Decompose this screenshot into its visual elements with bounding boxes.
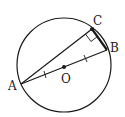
label-o: O xyxy=(61,72,71,86)
geometry-diagram: A B C O xyxy=(0,0,125,117)
segment-ac xyxy=(21,29,92,84)
diagram-canvas: A B C O xyxy=(0,0,125,117)
label-c: C xyxy=(93,14,102,28)
label-b: B xyxy=(110,41,119,55)
label-a: A xyxy=(7,79,17,93)
point-o-dot xyxy=(62,65,66,69)
